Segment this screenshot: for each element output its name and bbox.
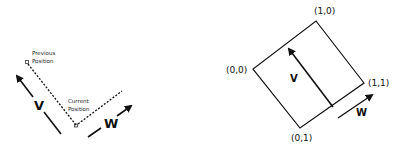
current-position-label: Current Position — [68, 98, 90, 112]
corner-label-right: (1,1) — [368, 78, 389, 88]
path-previous-to-current — [28, 64, 76, 125]
corner-label-left: (0,0) — [226, 65, 247, 75]
v-arrow-lower-segment — [44, 112, 61, 134]
w-label: W — [104, 116, 118, 131]
diagram-canvas: Previous Position Current Position V W (… — [0, 0, 405, 151]
v-label: V — [34, 98, 44, 113]
w-vector-label: W — [356, 107, 367, 118]
previous-position-marker — [26, 61, 29, 64]
right-diagram: (1,0) (0,0) (1,1) (0,1) V W — [226, 6, 389, 143]
left-diagram: Previous Position Current Position V W — [17, 50, 131, 137]
corner-label-bottom: (0,1) — [291, 133, 312, 143]
v-vector-label: V — [290, 73, 298, 84]
previous-position-label: Previous Position — [32, 50, 57, 64]
v-arrow-upper-segment — [17, 76, 33, 97]
corner-label-top: (1,0) — [314, 6, 335, 16]
w-arrow-upper-segment — [117, 106, 131, 116]
w-arrow-lower-segment — [88, 128, 101, 137]
